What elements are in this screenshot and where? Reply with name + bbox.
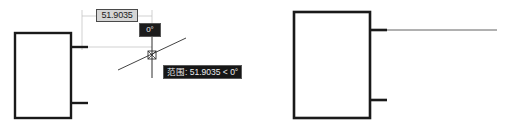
polar-tracking-tooltip: 范围: 51.9035 < 0° bbox=[163, 65, 242, 79]
left-rectangle bbox=[15, 33, 71, 118]
right-rectangle bbox=[294, 12, 370, 118]
dynamic-input-angle-field[interactable]: 0° bbox=[139, 23, 161, 37]
dynamic-input-distance-field[interactable]: 51.9035 bbox=[96, 9, 138, 22]
cad-drawing-canvas[interactable]: 51.9035 0° 范围: 51.9035 < 0° bbox=[0, 0, 506, 131]
drawing-vector-layer bbox=[0, 0, 506, 131]
